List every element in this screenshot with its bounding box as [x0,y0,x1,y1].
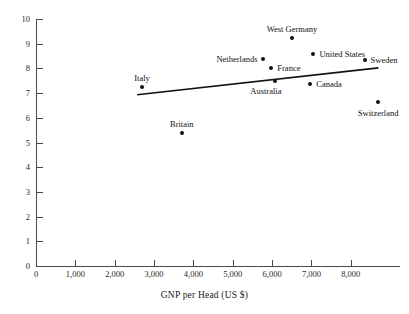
data-point-label: Switzerland [358,109,399,118]
data-point [180,131,184,135]
data-point [363,58,367,62]
data-point-label: Italy [134,74,150,83]
data-point-label: France [277,64,300,73]
data-point [290,36,294,40]
data-point-label: Britain [170,120,194,129]
data-point-label: Canada [316,80,342,89]
data-point-label: Australia [250,87,281,96]
data-point-label: United States [319,50,365,59]
data-point-label: Sweden [371,56,398,65]
x-axis-title: GNP per Head (US $) [0,290,409,300]
scatter-chart: 012345678910 01,0002,0003,0004,0005,0006… [0,0,409,314]
data-point-label: Netherlands [216,55,257,64]
data-point [273,79,277,83]
trend-line [0,0,409,314]
data-point-label: West Germany [267,25,318,34]
